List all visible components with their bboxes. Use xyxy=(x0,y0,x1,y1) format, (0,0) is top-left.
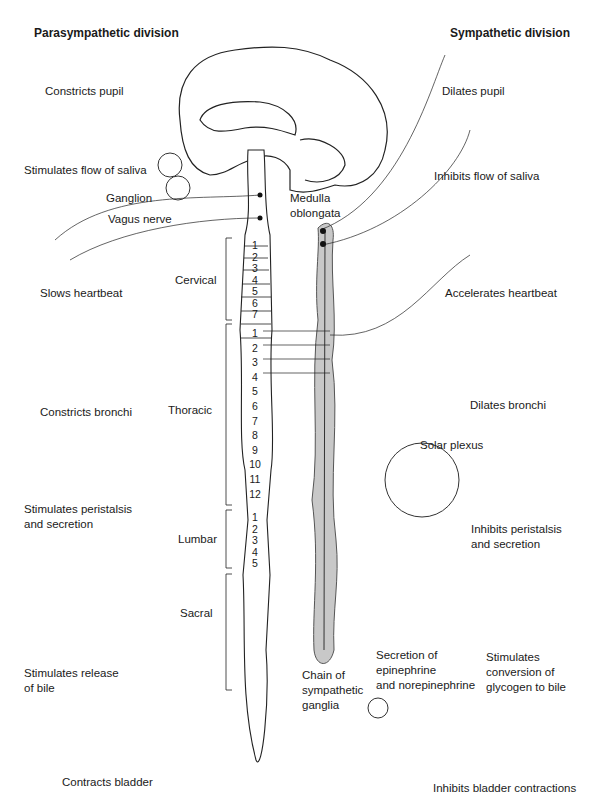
region-lumbar: Lumbar xyxy=(178,532,217,546)
segment-thoracic-7: 7 xyxy=(246,414,264,428)
region-thoracic: Thoracic xyxy=(168,403,212,417)
label-peristalsis-2: and secretion xyxy=(24,517,93,531)
label-medulla-2: oblongata xyxy=(290,206,341,220)
label-chain-2: sympathetic xyxy=(302,683,363,697)
label-dilates-pupil: Dilates pupil xyxy=(442,84,505,98)
segment-thoracic-5: 5 xyxy=(246,384,264,398)
label-medulla-1: Medulla xyxy=(290,191,330,205)
sympathetic-title: Sympathetic division xyxy=(450,26,570,40)
label-chain-3: ganglia xyxy=(302,698,339,712)
label-epinephrine-2: epinephrine xyxy=(376,663,436,677)
label-stimulates-saliva: Stimulates flow of saliva xyxy=(24,163,147,177)
label-accelerates-heartbeat: Accelerates heartbeat xyxy=(445,286,557,300)
region-sacral: Sacral xyxy=(180,606,213,620)
label-solar-plexus: Solar plexus xyxy=(420,438,483,452)
segment-thoracic-6: 6 xyxy=(246,399,264,413)
segment-thoracic-1: 1 xyxy=(246,326,264,340)
label-ganglion: Ganglion xyxy=(106,191,152,205)
label-vagus-nerve: Vagus nerve xyxy=(108,212,172,226)
label-epinephrine-3: and norepinephrine xyxy=(376,678,475,692)
region-cervical: Cervical xyxy=(175,273,217,287)
label-inhibits-peristalsis-2: and secretion xyxy=(471,537,540,551)
brain-icon xyxy=(179,47,387,192)
label-glycogen-1: Stimulates xyxy=(486,650,540,664)
segment-thoracic-3: 3 xyxy=(246,355,264,369)
label-bile-2: of bile xyxy=(24,681,55,695)
label-inhibits-peristalsis-1: Inhibits peristalsis xyxy=(471,522,562,536)
label-peristalsis-1: Stimulates peristalsis xyxy=(24,502,132,516)
label-glycogen-2: conversion of xyxy=(486,665,554,679)
label-constricts-pupil: Constricts pupil xyxy=(45,84,124,98)
segment-thoracic-2: 2 xyxy=(246,341,264,355)
label-glycogen-3: glycogen to bile xyxy=(486,680,566,694)
label-constricts-bronchi: Constricts bronchi xyxy=(40,405,132,419)
label-bile-1: Stimulates release xyxy=(24,666,119,680)
segment-thoracic-11: 11 xyxy=(246,472,264,486)
label-dilates-bronchi: Dilates bronchi xyxy=(470,398,546,412)
label-slows-heartbeat: Slows heartbeat xyxy=(40,286,122,300)
segment-cervical-7: 7 xyxy=(246,307,264,321)
label-inhibits-saliva: Inhibits flow of saliva xyxy=(434,169,539,183)
segment-thoracic-12: 12 xyxy=(246,487,264,501)
label-contracts-bladder: Contracts bladder xyxy=(62,775,153,789)
segment-thoracic-4: 4 xyxy=(246,370,264,384)
parasympathetic-title: Parasympathetic division xyxy=(34,26,179,40)
label-epinephrine-1: Secretion of xyxy=(376,648,437,662)
label-chain-1: Chain of xyxy=(302,668,345,682)
segment-thoracic-9: 9 xyxy=(246,443,264,457)
segment-lumbar-5: 5 xyxy=(246,556,264,570)
label-inhibits-bladder: Inhibits bladder contractions xyxy=(433,781,576,795)
segment-thoracic-10: 10 xyxy=(246,457,264,471)
segment-thoracic-8: 8 xyxy=(246,428,264,442)
